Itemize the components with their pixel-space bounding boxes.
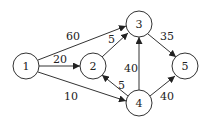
graph-diagram: 60 20 10 5 5 40 35 40 1 2 3 4 5 [0, 0, 209, 124]
node-label-1: 1 [23, 60, 30, 73]
edge-2-3 [102, 33, 128, 57]
weight-1-3: 60 [66, 30, 80, 43]
node-label-3: 3 [136, 18, 143, 31]
edge-1-4 [38, 72, 126, 101]
weight-1-2: 20 [53, 53, 67, 66]
weight-4-3: 40 [124, 62, 138, 75]
weight-3-5: 35 [160, 30, 174, 43]
node-label-5: 5 [182, 60, 189, 73]
node-label-4: 4 [136, 97, 143, 110]
weight-4-2: 5 [118, 79, 125, 92]
weight-4-5: 40 [160, 90, 174, 103]
weight-1-4: 10 [64, 90, 78, 103]
node-label-2: 2 [90, 60, 97, 73]
weight-2-3: 5 [108, 33, 115, 46]
